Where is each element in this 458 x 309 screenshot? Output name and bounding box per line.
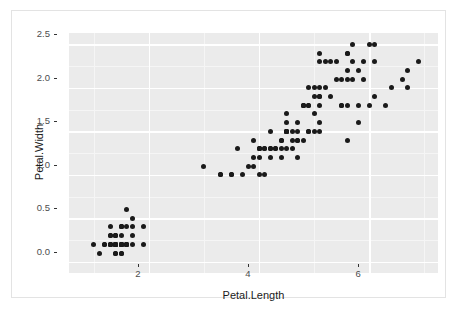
data-point (328, 94, 333, 99)
data-point (306, 129, 311, 134)
data-point (323, 59, 328, 64)
data-point (262, 172, 267, 177)
data-point (295, 129, 300, 134)
data-point (339, 103, 344, 108)
data-point (317, 120, 322, 125)
gridline-major-horizontal (69, 44, 438, 45)
data-point (119, 251, 124, 256)
gridline-major-vertical (259, 33, 260, 273)
data-point (119, 233, 124, 238)
y-axis-tick-mark (54, 165, 57, 166)
data-point (284, 129, 289, 134)
data-point (124, 224, 129, 229)
data-point (301, 138, 306, 143)
gridline-minor-horizontal (69, 197, 438, 198)
data-point (317, 103, 322, 108)
data-point (273, 146, 278, 151)
data-point (400, 77, 405, 82)
data-point (295, 120, 300, 125)
data-point (345, 68, 350, 73)
gridline-minor-horizontal (69, 240, 438, 241)
data-point (301, 103, 306, 108)
data-point (279, 146, 284, 151)
data-point (113, 242, 118, 247)
y-axis-tick-label: 2.5 (22, 29, 50, 39)
data-point (405, 85, 410, 90)
gridline-major-horizontal (69, 218, 438, 219)
data-point (361, 77, 366, 82)
x-axis-tick-label: 6 (343, 269, 373, 279)
gridline-major-horizontal (69, 262, 438, 263)
data-point (334, 59, 339, 64)
y-axis-tick-mark (54, 208, 57, 209)
gridline-minor-vertical (314, 33, 315, 273)
data-point (141, 242, 146, 247)
y-axis-tick-mark (54, 121, 57, 122)
data-point (339, 77, 344, 82)
data-point (367, 42, 372, 47)
data-point (372, 42, 377, 47)
data-point (251, 164, 256, 169)
data-point (268, 129, 273, 134)
data-point (361, 59, 366, 64)
plot-panel (69, 33, 438, 273)
gridline-minor-vertical (94, 33, 95, 273)
data-point (91, 242, 96, 247)
data-point (334, 77, 339, 82)
data-point (108, 242, 113, 247)
data-point (345, 77, 350, 82)
data-point (312, 85, 317, 90)
data-point (284, 120, 289, 125)
gridline-major-vertical (369, 33, 370, 273)
data-point (350, 42, 355, 47)
data-point (306, 85, 311, 90)
data-point (130, 233, 135, 238)
data-point (328, 59, 333, 64)
data-point (290, 138, 295, 143)
data-point (97, 251, 102, 256)
data-point (317, 51, 322, 56)
data-point (141, 224, 146, 229)
scatter-plot-figure: 0.00.51.01.52.02.5246 Petal.Length Petal… (0, 0, 458, 309)
data-point (295, 155, 300, 160)
data-point (306, 103, 311, 108)
data-point (356, 68, 361, 73)
gridline-minor-vertical (204, 33, 205, 273)
data-point (323, 85, 328, 90)
gridline-major-vertical (149, 33, 150, 273)
x-axis-tick-mark (248, 264, 249, 267)
data-point (350, 77, 355, 82)
data-point (246, 164, 251, 169)
data-point (102, 242, 107, 247)
data-point (235, 146, 240, 151)
data-point (229, 172, 234, 177)
data-point (240, 172, 245, 177)
data-point (130, 224, 135, 229)
data-point (268, 146, 273, 151)
data-point (257, 155, 262, 160)
data-point (119, 242, 124, 247)
gridline-major-horizontal (69, 131, 438, 132)
data-point (367, 103, 372, 108)
data-point (290, 129, 295, 134)
data-point (312, 94, 317, 99)
data-point (372, 59, 377, 64)
gridline-major-horizontal (69, 175, 438, 176)
data-point (317, 85, 322, 90)
data-point (383, 103, 388, 108)
data-point (124, 242, 129, 247)
data-point (317, 129, 322, 134)
data-point (312, 111, 317, 116)
gridline-minor-horizontal (69, 153, 438, 154)
y-axis-tick-mark (54, 78, 57, 79)
data-point (290, 146, 295, 151)
data-point (312, 129, 317, 134)
y-axis-tick-label: 0.0 (22, 247, 50, 257)
data-point (345, 103, 350, 108)
data-point (251, 155, 256, 160)
gridline-minor-horizontal (69, 110, 438, 111)
data-point (416, 59, 421, 64)
data-point (284, 146, 289, 151)
data-point (279, 155, 284, 160)
x-axis-tick-label: 4 (233, 269, 263, 279)
